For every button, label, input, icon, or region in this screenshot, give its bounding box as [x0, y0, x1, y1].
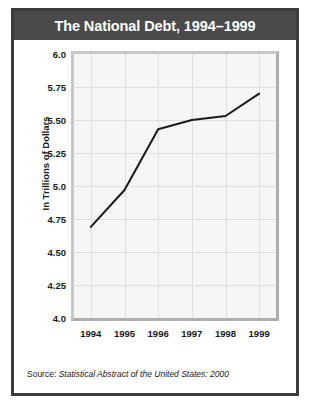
y-axis-tick-label: 6.0 [28, 49, 66, 60]
y-axis-tick-label: 4.25 [28, 280, 66, 291]
x-axis-tick-label: 1999 [239, 328, 279, 339]
plot-inner [74, 54, 276, 318]
plot-area [71, 51, 279, 321]
y-axis-tick-label: 5.50 [28, 115, 66, 126]
data-line [91, 94, 259, 227]
y-axis-tick-label: 4.50 [28, 247, 66, 258]
page-title: The National Debt, 1994–1999 [54, 18, 255, 34]
source-reference: Statistical Abstract of the United State… [59, 369, 229, 379]
y-axis-tick-label: 4.75 [28, 214, 66, 225]
chart-figure: The National Debt, 1994–1999 In Trillion… [11, 8, 299, 396]
source-label: Source: [27, 369, 56, 379]
data-line-series [74, 54, 276, 318]
y-axis-tick-label: 4.0 [28, 313, 66, 324]
y-axis-tick-label: 5.75 [28, 82, 66, 93]
chart-title-bar: The National Debt, 1994–1999 [14, 11, 296, 40]
source-note: Source: Statistical Abstract of the Unit… [27, 369, 229, 379]
y-axis-tick-label: 5.0 [28, 181, 66, 192]
y-axis-tick-label: 5.25 [28, 148, 66, 159]
chart-body: In Trillions of Dollars 6.05.755.505.255… [14, 40, 296, 393]
